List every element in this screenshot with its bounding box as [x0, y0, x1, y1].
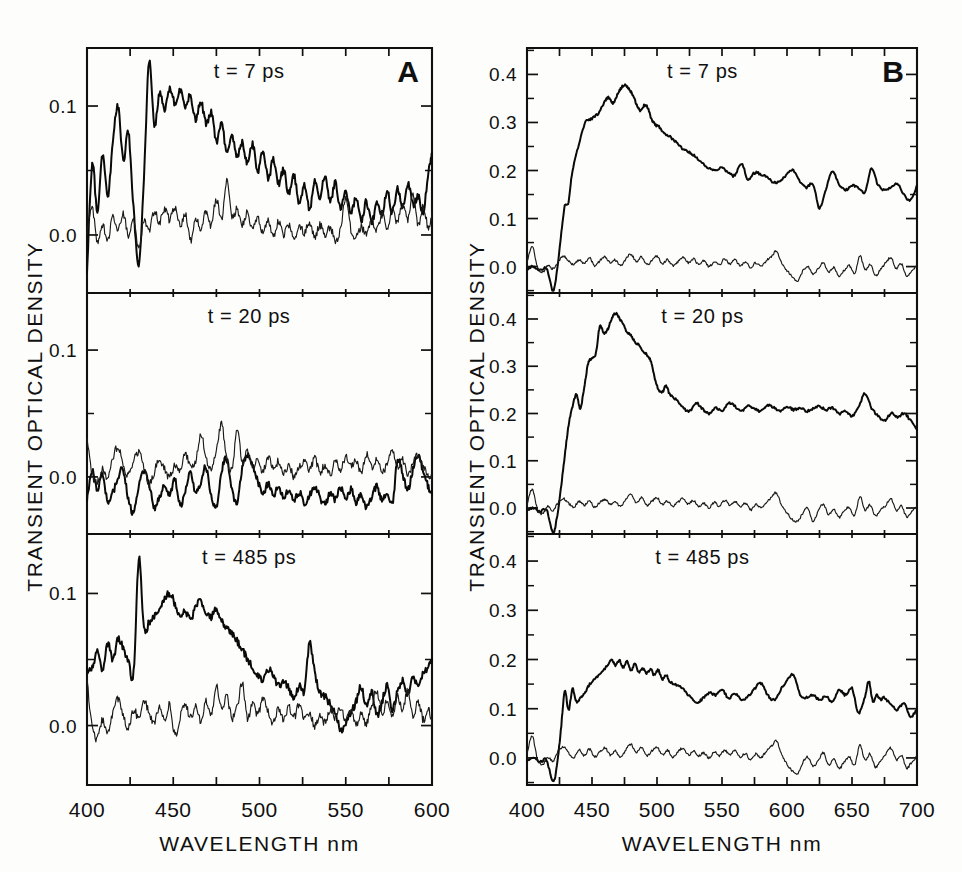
trace-baseline	[527, 247, 917, 282]
panel-b: 400450500550600650700WAVELENGTH nm0.00.1…	[489, 48, 935, 855]
y-tick-label: 0.3	[489, 600, 517, 621]
figure-root: 400450500550600WAVELENGTH nm0.00.1t = 7 …	[0, 0, 962, 872]
time-label: t = 20 ps	[661, 305, 744, 327]
y-tick-label: 0.0	[489, 257, 517, 278]
x-tick-label: 550	[704, 798, 741, 821]
y-tick-label: 0.2	[489, 650, 517, 671]
y-tick-label: 0.1	[49, 340, 77, 361]
trace-signal	[87, 61, 432, 273]
x-tick-label: 450	[574, 798, 611, 821]
y-axis-title-b: TRANSIENT OPTICAL DENSITY	[465, 241, 488, 591]
subpanel-a-3: 0.00.1t = 485 ps	[49, 546, 432, 742]
spectra-figure: 400450500550600WAVELENGTH nm0.00.1t = 7 …	[0, 0, 962, 872]
x-tick-label: 550	[327, 798, 364, 821]
y-tick-label: 0.0	[49, 467, 77, 488]
y-tick-label: 0.0	[489, 498, 517, 519]
x-tick-label: 600	[769, 798, 806, 821]
y-tick-label: 0.3	[489, 112, 517, 133]
time-label: t = 20 ps	[208, 305, 291, 327]
y-tick-label: 0.1	[489, 699, 517, 720]
trace-baseline	[527, 736, 917, 774]
y-tick-label: 0.0	[49, 716, 77, 737]
x-tick-label: 500	[241, 798, 278, 821]
trace-signal	[527, 660, 917, 782]
y-tick-label: 0.4	[489, 309, 517, 330]
subpanel-a-2: 0.00.1t = 20 ps	[49, 305, 432, 515]
panel-a: 400450500550600WAVELENGTH nm0.00.1t = 7 …	[49, 48, 450, 855]
y-tick-label: 0.4	[489, 64, 517, 85]
time-label: t = 485 ps	[202, 546, 296, 568]
subpanel-b-2: 0.00.10.20.30.4t = 20 ps	[489, 295, 917, 533]
time-label: t = 7 ps	[667, 60, 738, 82]
x-tick-label: 400	[509, 798, 546, 821]
y-tick-label: 0.2	[489, 404, 517, 425]
y-axis-title-a: TRANSIENT OPTICAL DENSITY	[23, 241, 46, 591]
subpanel-b-3: 0.00.10.20.30.4t = 485 ps	[489, 536, 917, 782]
x-tick-label: 650	[834, 798, 871, 821]
x-tick-label: 700	[899, 798, 936, 821]
y-tick-label: 0.1	[489, 451, 517, 472]
x-tick-label: 600	[414, 798, 451, 821]
panel-letter: A	[397, 55, 419, 88]
x-tick-label: 500	[639, 798, 676, 821]
y-tick-label: 0.4	[489, 551, 517, 572]
x-axis-title: WAVELENGTH nm	[159, 832, 360, 855]
time-label: t = 485 ps	[655, 546, 749, 568]
y-tick-label: 0.3	[489, 356, 517, 377]
subpanel-a-1: 0.00.1t = 7 psA	[49, 55, 432, 273]
panel-b-frame	[527, 48, 917, 785]
y-tick-label: 0.0	[489, 748, 517, 769]
y-tick-label: 0.0	[49, 225, 77, 246]
y-tick-label: 0.1	[489, 209, 517, 230]
time-label: t = 7 ps	[214, 60, 285, 82]
subpanel-b-1: 0.00.10.20.30.4t = 7 psB	[489, 50, 917, 290]
y-tick-label: 0.1	[49, 583, 77, 604]
trace-baseline	[87, 421, 432, 488]
x-tick-label: 450	[155, 798, 192, 821]
panel-letter: B	[882, 55, 904, 88]
y-tick-label: 0.2	[489, 161, 517, 182]
x-axis-title: WAVELENGTH nm	[622, 832, 823, 855]
y-tick-label: 0.1	[49, 96, 77, 117]
x-tick-label: 400	[69, 798, 106, 821]
trace-baseline	[527, 489, 917, 522]
